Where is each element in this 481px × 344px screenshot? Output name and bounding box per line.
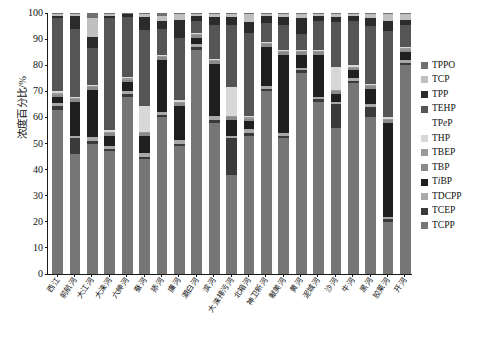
bar-segment-tibp: [226, 120, 237, 136]
bar-segment-tehp: [157, 29, 168, 55]
bar-segment-tehp: [383, 31, 394, 117]
x-tick-label: 大涞河: [94, 276, 113, 300]
bar-segment-tpp: [261, 16, 272, 24]
x-tick-label: 西江: [46, 276, 61, 294]
bar: [313, 13, 324, 274]
legend-item-tppo[interactable]: TPPO: [421, 58, 481, 73]
legend-swatch-tcpp-icon: [421, 222, 428, 229]
bar-segment-tcpp: [331, 128, 342, 274]
legend-item-tdcpp[interactable]: TDCPP: [421, 189, 481, 204]
bar: [157, 13, 168, 274]
legend: TPPOTCPTPPTEHPTPePTHPTBEPTBPTiBPTDCPPTCE…: [421, 58, 481, 233]
bar: [296, 13, 307, 274]
x-tick-label: 滨河: [202, 276, 217, 294]
bars-layer: [48, 13, 412, 274]
plot-area: 0102030405060708090100: [47, 13, 412, 275]
bar: [244, 13, 255, 274]
bar-segment-tcpp: [313, 102, 324, 274]
bar-segment-tehp: [52, 18, 63, 91]
bar-segment-tehp: [313, 21, 324, 50]
x-tick-label: 献美河: [268, 276, 287, 300]
legend-label: TCP: [432, 75, 449, 85]
stacked-bar-chart: 浓度百分比/% 0102030405060708090100 西江前航河大江河大…: [0, 0, 481, 344]
bar-segment-tehp: [365, 26, 376, 83]
bar-segment-tpp: [296, 18, 307, 34]
bar-segment-tehp: [209, 25, 220, 59]
bar-segment-tibp: [278, 55, 289, 133]
x-tick-label: 沙河: [324, 276, 339, 294]
legend-swatch-tbp-icon: [421, 164, 428, 171]
bar-segment-tcpp: [278, 138, 289, 274]
bar-segment-tcpp: [226, 175, 237, 274]
legend-item-thp[interactable]: THP: [421, 131, 481, 146]
bar-segment-tehp: [174, 38, 185, 101]
bar-segment-tibp: [104, 136, 115, 146]
bar-segment-tehp: [400, 25, 411, 47]
legend-swatch-thp-icon: [421, 135, 428, 142]
legend-item-tehp[interactable]: TEHP: [421, 102, 481, 117]
bar: [261, 13, 272, 274]
bar: [139, 13, 150, 274]
legend-label: TiBP: [432, 177, 452, 187]
legend-label: TCEP: [432, 206, 455, 216]
legend-label: TBP: [432, 163, 449, 173]
bar-segment-tcpp: [139, 159, 150, 274]
bar-segment-tpp: [278, 17, 289, 25]
bar-segment-tehp: [191, 21, 202, 33]
legend-label: TPP: [432, 90, 448, 100]
bar-segment-tibp: [244, 121, 255, 129]
legend-swatch-tbep-icon: [421, 149, 428, 156]
legend-label: TPPO: [432, 61, 455, 71]
bar-segment-tpp: [174, 20, 185, 38]
legend-item-tcpp[interactable]: TCPP: [421, 219, 481, 234]
bar-segment-tcep: [331, 104, 342, 127]
legend-swatch-tibp-icon: [421, 179, 428, 186]
legend-item-tcep[interactable]: TCEP: [421, 204, 481, 219]
bar-segment-tibp: [365, 89, 376, 105]
x-axis-labels: 西江前航河大江河大涞河六绅河蚕河掭河廉河潮白河滨河大涞排污河北箱河神卫新河献美河…: [47, 276, 412, 344]
bar: [52, 13, 63, 274]
legend-swatch-tcep-icon: [421, 208, 428, 215]
x-tick-label: 大江河: [76, 276, 95, 300]
legend-item-tibp[interactable]: TiBP: [421, 175, 481, 190]
bar-segment-tpp: [209, 17, 220, 25]
bar-segment-tpp: [226, 17, 237, 25]
bar-segment-tcpp: [52, 110, 63, 274]
bar-segment-tcep: [70, 138, 81, 154]
bar-segment-tcpp: [261, 91, 272, 274]
bar-segment-tehp: [70, 29, 81, 97]
bar-segment-tibp: [348, 70, 359, 78]
bar: [383, 13, 394, 274]
bar-segment-tibp: [70, 102, 81, 136]
bar-segment-tcpp: [191, 50, 202, 274]
bar-segment-tehp: [348, 21, 359, 65]
legend-item-tpep[interactable]: TPeP: [421, 116, 481, 131]
bar-segment-tpp: [157, 21, 168, 29]
bar-segment-tibp: [174, 106, 185, 140]
bar: [87, 13, 98, 274]
bar-segment-tibp: [139, 136, 150, 153]
bar-segment-tcep: [365, 107, 376, 117]
x-tick-label: 黄河: [289, 276, 304, 294]
bar-segment-tcp: [244, 14, 255, 22]
legend-swatch-tehp-icon: [421, 106, 428, 113]
legend-swatch-tpep-icon: [421, 120, 428, 127]
bar-segment-tibp: [400, 52, 411, 60]
bar-segment-tcpp: [104, 151, 115, 274]
bar-segment-tibp: [383, 123, 394, 217]
legend-item-tcp[interactable]: TCP: [421, 73, 481, 88]
legend-item-tbp[interactable]: TBP: [421, 160, 481, 175]
bar: [104, 13, 115, 274]
legend-item-tpp[interactable]: TPP: [421, 87, 481, 102]
legend-label: TCPP: [432, 221, 455, 231]
legend-item-tbep[interactable]: TBEP: [421, 146, 481, 161]
bar-segment-tpp: [70, 16, 81, 29]
bar-segment-tcpp: [87, 144, 98, 275]
legend-label: TEHP: [432, 104, 456, 114]
bar-segment-tcpp: [70, 154, 81, 274]
bar-segment-tpp: [365, 18, 376, 26]
bar-segment-tpp: [139, 17, 150, 30]
bar-segment-thp: [331, 67, 342, 90]
bar: [70, 13, 81, 274]
bar: [278, 13, 289, 274]
